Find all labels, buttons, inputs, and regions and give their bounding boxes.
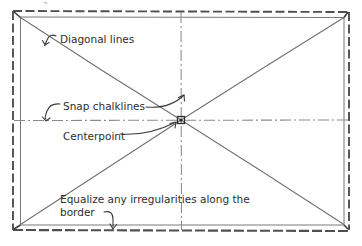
annotation-equalize-line2: border [60, 206, 95, 218]
annotation-equalize-line1: Equalize any irregularities along the [60, 193, 250, 205]
leader-snap-left [45, 104, 60, 119]
sketch-svg: Diagonal lines Snap chalklines Centerpoi… [0, 0, 362, 246]
corner-nub-bottom-left [14, 225, 21, 229]
annotation-diagonal-lines-label: Diagonal lines [60, 33, 134, 45]
diagram-canvas: Diagonal lines Snap chalklines Centerpoi… [0, 0, 362, 246]
border-outer-bottom [13, 230, 349, 231]
border-inner-top [21, 17, 345, 18]
stray-pencil-mark [44, 2, 47, 4]
leader-centerpoint [120, 123, 174, 134]
annotation-text-group: Diagonal lines Snap chalklines Centerpoi… [60, 33, 250, 218]
corner-nub-top-left [14, 12, 21, 18]
centerpoint-dot [180, 119, 183, 122]
border-outer-top [13, 11, 349, 12]
leader-snap-right [146, 95, 184, 107]
annotation-centerpoint-label: Centerpoint [63, 130, 125, 142]
annotation-snap-chalklines-label: Snap chalklines [63, 100, 145, 112]
corner-nub-bottom-right [344, 225, 348, 229]
